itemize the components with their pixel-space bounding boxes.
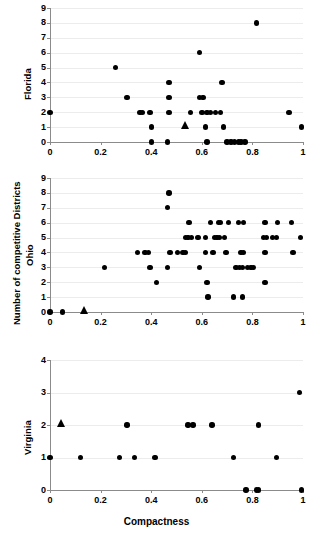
data-point: [186, 220, 191, 225]
y-tick-label: 0: [34, 138, 46, 147]
x-tick-label: 0.4: [139, 496, 163, 505]
data-point: [275, 220, 280, 225]
y-tick-mark: [47, 178, 50, 179]
data-point: [165, 205, 170, 210]
x-tick-label: 0: [38, 148, 62, 157]
data-point: [256, 487, 261, 492]
panel-virginia: Virginia 0123400.20.40.60.81 Compactness: [0, 350, 313, 540]
data-point: [132, 455, 137, 460]
data-point: [166, 80, 171, 85]
data-point: [188, 110, 193, 115]
y-axis-line: [50, 8, 51, 142]
y-tick-label: 2: [34, 278, 46, 287]
data-point: [203, 250, 208, 255]
x-tick-label: 0.6: [190, 496, 214, 505]
data-point: [200, 95, 205, 100]
data-point: [242, 139, 247, 144]
data-point: [149, 124, 154, 129]
gridline: [50, 193, 303, 194]
data-point: [299, 124, 304, 129]
y-tick-mark: [47, 38, 50, 39]
data-point: [47, 309, 52, 314]
y-tick-mark: [47, 297, 50, 298]
y-tick-mark: [47, 23, 50, 24]
y-tick-label: 5: [34, 233, 46, 242]
data-point: [113, 65, 118, 70]
data-point: [262, 280, 267, 285]
gridline: [50, 393, 303, 394]
x-tick-mark: [101, 142, 102, 145]
data-point: [149, 139, 154, 144]
y-tick-mark: [47, 360, 50, 361]
data-point: [166, 95, 171, 100]
data-point: [205, 294, 210, 299]
y-tick-label: 1: [34, 123, 46, 132]
data-point: [274, 235, 279, 240]
scatter-figure-container: Florida 012345678900.20.40.60.81 Number …: [0, 0, 313, 554]
y-tick-label: 1: [34, 453, 46, 462]
data-point: [226, 220, 231, 225]
panel-virginia-y-title: Virginia: [22, 420, 33, 455]
data-point: [197, 50, 202, 55]
y-tick-mark: [47, 68, 50, 69]
x-tick-mark: [50, 142, 51, 145]
y-tick-label: 5: [34, 63, 46, 72]
gridline: [50, 112, 303, 113]
data-point: [219, 80, 224, 85]
x-tick-label: 0.2: [89, 318, 113, 327]
y-axis-line: [50, 178, 51, 312]
x-tick-label: 0.2: [89, 148, 113, 157]
x-tick-label: 0.8: [240, 148, 264, 157]
data-point: [190, 422, 195, 427]
y-tick-label: 8: [34, 18, 46, 27]
gridline: [50, 127, 303, 128]
data-point: [254, 20, 259, 25]
panel-florida-y-title: Florida: [22, 68, 33, 100]
y-tick-mark: [47, 282, 50, 283]
y-tick-label: 4: [34, 356, 46, 365]
panel-ohio: Number of competitive Districts Ohio 012…: [0, 170, 313, 330]
data-point: [60, 309, 65, 314]
gridline: [50, 82, 303, 83]
data-point: [146, 250, 151, 255]
data-point: [203, 235, 208, 240]
panel-florida: Florida 012345678900.20.40.60.81: [0, 0, 313, 160]
y-tick-mark: [47, 238, 50, 239]
y-tick-mark: [47, 193, 50, 194]
x-tick-label: 1: [291, 496, 313, 505]
gridline: [50, 360, 303, 361]
data-point: [102, 265, 107, 270]
gridline: [50, 458, 303, 459]
data-point: [152, 455, 157, 460]
y-tick-label: 4: [34, 78, 46, 87]
x-tick-mark: [151, 312, 152, 315]
data-point: [223, 250, 228, 255]
data-point: [47, 455, 52, 460]
y-tick-mark: [47, 425, 50, 426]
panel-virginia-plot-area: 0123400.20.40.60.81: [50, 360, 303, 490]
y-tick-mark: [47, 208, 50, 209]
x-tick-label: 0.8: [240, 496, 264, 505]
y-tick-mark: [47, 8, 50, 9]
x-tick-mark: [303, 142, 304, 145]
data-point: [298, 235, 303, 240]
gridline: [50, 38, 303, 39]
data-point: [124, 95, 129, 100]
x-tick-mark: [101, 490, 102, 493]
data-point: [210, 250, 215, 255]
y-tick-mark: [47, 127, 50, 128]
x-tick-mark: [50, 490, 51, 493]
data-point: [286, 110, 291, 115]
y-axis-line: [50, 360, 51, 490]
x-tick-mark: [303, 312, 304, 315]
data-point: [197, 265, 202, 270]
panel-florida-plot-area: 012345678900.20.40.60.81: [50, 8, 303, 142]
y-tick-label: 3: [34, 93, 46, 102]
x-tick-mark: [202, 490, 203, 493]
data-point: [262, 220, 267, 225]
y-tick-mark: [47, 53, 50, 54]
gridline: [50, 97, 303, 98]
data-point: [165, 139, 170, 144]
data-point: [241, 220, 246, 225]
data-point: [147, 265, 152, 270]
